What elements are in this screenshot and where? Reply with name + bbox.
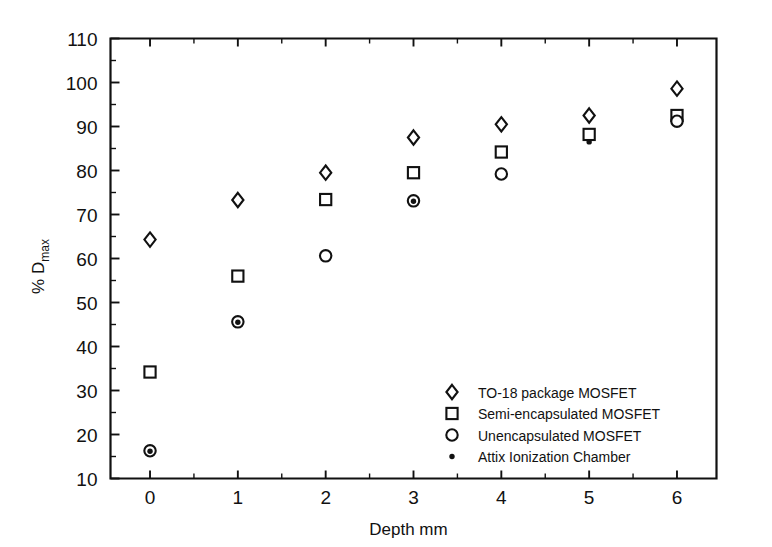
figure-panel: 1020304050607080901001100123456Depth mm%… [0, 0, 772, 547]
data-point [147, 449, 152, 454]
data-point [496, 168, 507, 179]
data-point [144, 366, 155, 377]
y-axis-tick-label: 80 [76, 161, 97, 182]
x-axis-tick-label: 4 [496, 487, 507, 508]
data-point [584, 129, 595, 140]
x-axis-tick-label: 3 [408, 487, 419, 508]
data-point [320, 194, 331, 205]
x-axis-tick-label: 6 [672, 487, 683, 508]
y-axis-title-text: % Dmax [29, 239, 52, 294]
data-point [144, 232, 155, 246]
y-axis-tick-label: 40 [76, 337, 97, 358]
legend-label: Unencapsulated MOSFET [478, 428, 642, 444]
y-axis-title: % Dmax [29, 239, 52, 294]
data-point [232, 271, 243, 282]
y-axis-tick-label: 30 [76, 381, 97, 402]
dot-filled-marker [449, 454, 454, 459]
y-axis-tick-label: 70 [76, 205, 97, 226]
data-point [320, 250, 331, 261]
series-1 [144, 81, 682, 246]
legend: TO-18 package MOSFETSemi-encapsulated MO… [446, 385, 660, 466]
data-point [411, 199, 416, 204]
x-axis-title: Depth mm [369, 520, 447, 539]
square-open-marker [446, 408, 457, 419]
diamond-open-marker [446, 385, 457, 399]
data-point [496, 146, 507, 157]
scatter-plot: 1020304050607080901001100123456Depth mm%… [0, 0, 772, 547]
data-point [496, 117, 507, 131]
data-point [320, 166, 331, 180]
y-axis-tick-label: 50 [76, 293, 97, 314]
legend-label: TO-18 package MOSFET [478, 385, 637, 401]
x-axis-tick-label: 2 [320, 487, 331, 508]
data-point [671, 81, 682, 95]
series-2 [144, 110, 682, 378]
data-point [235, 320, 240, 325]
data-point [586, 139, 591, 144]
data-point [584, 108, 595, 122]
circle-open-marker [446, 429, 457, 440]
data-point [232, 193, 243, 207]
x-axis-tick-label: 5 [584, 487, 595, 508]
data-point [408, 130, 419, 144]
y-axis-tick-label: 100 [66, 73, 98, 94]
data-point [408, 167, 419, 178]
y-axis-tick-label: 60 [76, 249, 97, 270]
legend-label: Semi-encapsulated MOSFET [478, 406, 661, 422]
x-axis-tick-label: 0 [145, 487, 156, 508]
data-point [671, 116, 682, 127]
y-axis-tick-label: 90 [76, 117, 97, 138]
y-axis-tick-label: 20 [76, 425, 97, 446]
x-axis-tick-label: 1 [233, 487, 244, 508]
y-axis-tick-label: 10 [76, 469, 97, 490]
legend-label: Attix Ionization Chamber [478, 449, 631, 465]
y-axis-tick-label: 110 [67, 29, 97, 50]
